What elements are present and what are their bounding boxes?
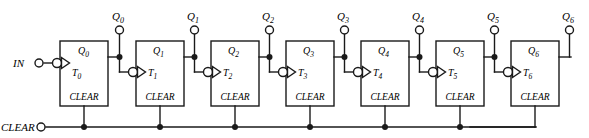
pin-label-clear-1: CLEAR [145, 92, 174, 102]
pin-label-clear-5: CLEAR [445, 92, 474, 102]
invert-bubble-3 [279, 68, 288, 77]
pin-label-t-2: T2 [223, 67, 233, 81]
terminal-label-q-5: Q5 [487, 10, 499, 25]
clock-triangle-0 [62, 58, 70, 69]
terminal-q-4[interactable] [416, 26, 424, 34]
terminal-q-5[interactable] [491, 26, 499, 34]
terminal-q-1[interactable] [191, 26, 199, 34]
terminal-q-0[interactable] [116, 26, 124, 34]
clock-triangle-4 [363, 67, 371, 78]
pin-label-t-3: T3 [298, 67, 308, 81]
pin-label-clear-0: CLEAR [69, 92, 98, 102]
invert-bubble-0 [53, 59, 62, 68]
invert-bubble-5 [429, 68, 438, 77]
pin-label-q-0: Q0 [78, 45, 89, 59]
invert-bubble-4 [354, 68, 363, 77]
pin-label-clear-4: CLEAR [370, 92, 399, 102]
terminal-in[interactable] [35, 59, 43, 67]
pin-label-q-2: Q2 [228, 45, 239, 59]
clock-triangle-5 [438, 67, 446, 78]
pin-label-q-6: Q6 [528, 45, 539, 59]
terminal-clear[interactable] [37, 123, 45, 131]
pin-label-t-5: T5 [448, 67, 458, 81]
pin-label-t-1: T1 [148, 67, 157, 81]
label-in: IN [12, 57, 25, 69]
invert-bubble-2 [204, 68, 213, 77]
pin-label-q-3: Q3 [303, 45, 314, 59]
invert-bubble-6 [504, 68, 513, 77]
clock-triangle-6 [513, 67, 521, 78]
terminal-q-3[interactable] [341, 26, 349, 34]
pin-label-clear-6: CLEAR [520, 92, 549, 102]
pin-label-q-5: Q5 [453, 45, 464, 59]
clock-triangle-2 [213, 67, 221, 78]
terminal-label-q-6: Q6 [562, 10, 574, 25]
terminal-label-q-2: Q2 [262, 10, 274, 25]
terminal-label-q-0: Q0 [112, 10, 124, 25]
circuit-diagram-canvas: IN CLEAR Q0 Q1 Q2 Q3 Q4 Q5 Q6 Q0 Q1 Q2 Q… [0, 0, 589, 138]
clock-triangle-1 [138, 67, 146, 78]
pin-label-clear-2: CLEAR [220, 92, 249, 102]
schematic-svg: IN CLEAR Q0 Q1 Q2 Q3 Q4 Q5 Q6 Q0 Q1 Q2 Q… [0, 0, 589, 138]
pin-label-q-1: Q1 [153, 45, 164, 59]
label-clear-bus: CLEAR [1, 121, 35, 133]
pin-label-t-0: T0 [72, 67, 82, 81]
terminal-label-q-3: Q3 [337, 10, 349, 25]
clock-triangle-3 [288, 67, 296, 78]
pin-label-q-4: Q4 [378, 45, 389, 59]
terminal-q-6[interactable] [566, 26, 574, 34]
terminal-label-q-4: Q4 [412, 10, 424, 25]
terminal-label-q-1: Q1 [187, 10, 199, 25]
terminal-q-2[interactable] [266, 26, 274, 34]
pin-label-t-6: T6 [523, 67, 533, 81]
pin-label-t-4: T4 [373, 67, 383, 81]
invert-bubble-1 [129, 68, 138, 77]
pin-label-clear-3: CLEAR [295, 92, 324, 102]
